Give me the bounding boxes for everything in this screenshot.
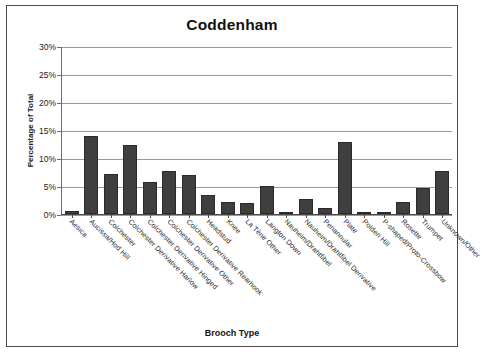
y-tick-label: 0% [44, 210, 56, 220]
y-axis-title: Percentage of Total [26, 61, 35, 201]
bar-slot [394, 47, 414, 214]
bar[interactable] [435, 171, 449, 214]
bar-slot [179, 47, 199, 214]
bar-slot [374, 47, 394, 214]
x-axis-title: Brooch Type [7, 328, 457, 338]
bar[interactable] [84, 136, 98, 214]
x-axis-category-labels: AesicaAucissa/Hod HillColchesterColchest… [62, 217, 453, 329]
bar-slot [140, 47, 160, 214]
bar[interactable] [299, 199, 313, 214]
bar[interactable] [143, 182, 157, 214]
bar-slot [62, 47, 82, 214]
plot-inner: 0%5%10%15%20%25%30% [61, 47, 452, 215]
bar[interactable] [396, 202, 410, 214]
bar-series [62, 47, 452, 214]
bar-slot [316, 47, 336, 214]
bar-slot [335, 47, 355, 214]
bar-slot [101, 47, 121, 214]
y-tick-label: 30% [39, 42, 56, 52]
y-tick-label: 15% [39, 126, 56, 136]
bar[interactable] [221, 202, 235, 214]
bar-slot [82, 47, 102, 214]
bar-slot [121, 47, 141, 214]
bar-slot [433, 47, 453, 214]
y-tick-label: 25% [39, 70, 56, 80]
bar-slot [160, 47, 180, 214]
bar[interactable] [416, 188, 430, 214]
bar[interactable] [162, 171, 176, 214]
bar[interactable] [104, 174, 118, 214]
bar-slot [296, 47, 316, 214]
bar-slot [277, 47, 297, 214]
y-tick-mark [57, 215, 61, 216]
bar[interactable] [201, 195, 215, 214]
bar-slot [199, 47, 219, 214]
bar[interactable] [123, 145, 137, 214]
chart-frame: Coddenham Percentage of Total 0%5%10%15%… [6, 5, 458, 347]
bar-slot [257, 47, 277, 214]
x-axis-line [61, 214, 452, 215]
bar[interactable] [260, 186, 274, 214]
bar[interactable] [240, 203, 254, 214]
y-tick-label: 20% [39, 98, 56, 108]
bar-slot [238, 47, 258, 214]
x-axis-label: Unknown/Other [439, 217, 482, 260]
bar-slot [218, 47, 238, 214]
y-tick-label: 10% [39, 154, 56, 164]
chart-title: Coddenham [7, 16, 457, 34]
gridline [61, 215, 452, 216]
bar[interactable] [182, 175, 196, 214]
plot-area: 0%5%10%15%20%25%30% [61, 47, 452, 215]
y-tick-label: 5% [44, 182, 56, 192]
x-axis-label: Aesica [68, 217, 90, 239]
bar[interactable] [338, 142, 352, 214]
bar-slot [355, 47, 375, 214]
bar-slot [413, 47, 433, 214]
